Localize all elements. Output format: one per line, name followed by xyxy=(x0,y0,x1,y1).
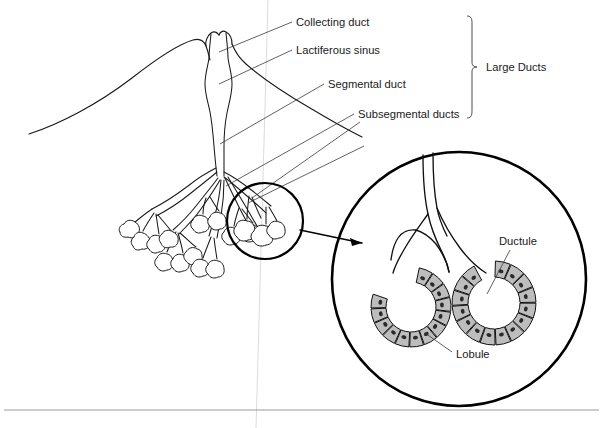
leader-subsegmental-lower-a xyxy=(252,122,360,198)
label-subsegmental-ducts: Subsegmental ducts xyxy=(358,108,460,120)
zoom-arrow xyxy=(300,230,362,246)
main-duct-system xyxy=(205,33,232,176)
acini-cell-rings xyxy=(371,261,536,347)
label-segmental-duct: Segmental duct xyxy=(328,78,407,90)
diagram-canvas: Collecting duct Lactiferous sinus Segmen… xyxy=(0,0,603,428)
label-collecting-duct: Collecting duct xyxy=(296,16,370,28)
leader-segmental-duct xyxy=(220,84,324,144)
leader-subsegmental-lower-b xyxy=(248,146,364,203)
magnified-ductule-branch xyxy=(391,153,486,273)
label-ductule: Ductule xyxy=(499,235,537,247)
leader-collecting-duct xyxy=(219,22,292,52)
label-lactiferous-sinus: Lactiferous sinus xyxy=(296,44,380,56)
leader-subsegmental-ducts xyxy=(226,114,354,186)
text-labels: Collecting duct Lactiferous sinus Segmen… xyxy=(296,16,547,360)
label-lobule: Lobule xyxy=(456,348,490,360)
large-ducts-bracket xyxy=(467,16,477,118)
right-acinus xyxy=(452,261,536,345)
anatomy-figure: Collecting duct Lactiferous sinus Segmen… xyxy=(0,0,603,428)
left-acinus xyxy=(371,268,451,347)
label-large-ducts: Large Ducts xyxy=(486,61,547,73)
